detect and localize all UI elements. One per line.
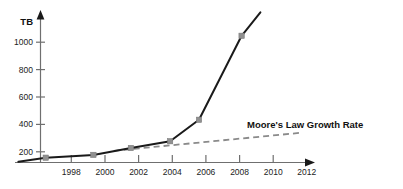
data-point-marker: [43, 155, 48, 160]
x-tick-label-2006: 2006: [196, 167, 215, 177]
data-point-marker: [196, 117, 201, 122]
x-tick-label-2002: 2002: [129, 167, 148, 177]
x-tick-group: [71, 155, 273, 163]
y-tick-label-800: 800: [19, 65, 33, 75]
data-point-marker: [167, 139, 172, 144]
moore-law-annotation-label: Moore's Law Growth Rate: [247, 119, 363, 130]
y-tick-label-200: 200: [19, 147, 33, 157]
y-tick-label-400: 400: [19, 119, 33, 129]
y-tick-label-1000: 1000: [14, 37, 33, 47]
chart-container: 1000 800 600 400 200 TB 1998 2000 2002 2…: [0, 0, 403, 189]
x-tick-label-2008: 2008: [230, 167, 249, 177]
x-axis-arrow-icon: [305, 158, 315, 166]
x-tick-label-2000: 2000: [96, 167, 115, 177]
data-point-marker: [239, 33, 244, 38]
x-tick-label-1998: 1998: [62, 167, 81, 177]
data-point-marker: [91, 152, 96, 157]
moore-law-trend-line: [114, 133, 300, 151]
growth-chart: 1000 800 600 400 200 TB 1998 2000 2002 2…: [0, 0, 403, 189]
x-tick-label-2010: 2010: [264, 167, 283, 177]
y-axis-arrow-icon: [37, 10, 45, 20]
y-axis-unit-label: TB: [20, 16, 33, 27]
y-tick-label-600: 600: [19, 92, 33, 102]
x-tick-label-2004: 2004: [163, 167, 182, 177]
x-tick-label-2012: 2012: [297, 167, 316, 177]
data-point-marker: [128, 145, 133, 150]
